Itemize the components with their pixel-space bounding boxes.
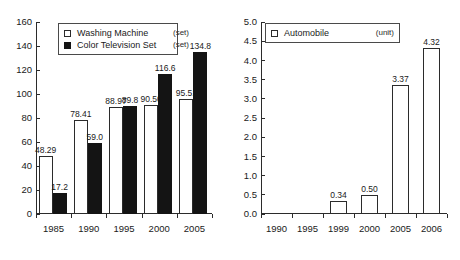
- bar: [123, 106, 137, 214]
- x-tick-mark: [385, 214, 386, 218]
- legend-swatch-icon-color-television-set: [64, 42, 71, 49]
- bar: [158, 74, 172, 214]
- bar: [53, 193, 67, 214]
- bar: [193, 52, 207, 214]
- bar: [109, 107, 123, 214]
- bar: [88, 143, 102, 214]
- x-tick-mark: [36, 214, 37, 218]
- legend-item-washing-machine: Washing Machine (set): [64, 27, 172, 39]
- x-tick-mark: [447, 214, 448, 218]
- legend-unit-color-television-set: (set): [163, 40, 189, 50]
- legend-swatch-icon-automobile: [271, 30, 278, 37]
- legend-item-color-television-set: Color Television Set (set): [64, 39, 172, 51]
- bar-value-label: 0.34: [325, 191, 353, 200]
- x-tick-mark: [212, 214, 213, 218]
- x-tick-mark: [106, 214, 107, 218]
- bar: [423, 48, 440, 214]
- bar: [361, 195, 378, 214]
- legend-right: Automobile (unit): [265, 23, 400, 43]
- plot-area-right: 0.00.51.01.52.02.53.03.54.04.55.0 0.340.…: [261, 22, 447, 214]
- chart-panel-appliances: 020406080100120140160 48.2917.278.4159.0…: [0, 0, 225, 260]
- x-tick-label: 1990: [71, 224, 107, 234]
- x-tick-mark: [177, 214, 178, 218]
- x-tick-label: 2005: [176, 224, 212, 234]
- two-panel-bar-chart-figure: 020406080100120140160 48.2917.278.4159.0…: [0, 0, 460, 260]
- x-tick-mark: [354, 214, 355, 218]
- bar: [330, 201, 347, 214]
- legend-left: Washing Machine (set) Color Television S…: [58, 23, 178, 55]
- bar-value-label: 3.37: [387, 75, 415, 84]
- bar: [392, 85, 409, 214]
- legend-unit-washing-machine: (set): [163, 28, 189, 38]
- bar-value-label: 48.29: [32, 146, 60, 155]
- legend-label-color-television-set: Color Television Set: [77, 40, 163, 50]
- bar-value-label: 17.2: [46, 183, 74, 192]
- legend-item-automobile: Automobile (unit): [271, 27, 394, 39]
- x-tick-mark: [71, 214, 72, 218]
- x-tick-label: 1995: [106, 224, 142, 234]
- x-tick-label: 1985: [36, 224, 72, 234]
- bar-value-label: 0.50: [356, 185, 384, 194]
- bar: [179, 99, 193, 214]
- x-tick-mark: [142, 214, 143, 218]
- x-tick-mark: [292, 214, 293, 218]
- legend-unit-automobile: (unit): [366, 28, 394, 38]
- bar-value-label: 59.0: [81, 133, 109, 142]
- legend-label-washing-machine: Washing Machine: [77, 28, 163, 38]
- x-tick-mark: [323, 214, 324, 218]
- bar-value-label: 78.41: [67, 110, 95, 119]
- legend-label-automobile: Automobile: [284, 28, 329, 38]
- x-tick-label: 2000: [141, 224, 177, 234]
- bar-value-label: 4.32: [418, 38, 446, 47]
- legend-swatch-icon-washing-machine: [64, 30, 71, 37]
- bar-value-label: 116.6: [151, 64, 179, 73]
- x-tick-mark: [416, 214, 417, 218]
- bar-value-label: 134.8: [186, 42, 214, 51]
- x-tick-label: 2006: [414, 224, 450, 234]
- x-tick-mark: [261, 214, 262, 218]
- bar: [144, 105, 158, 214]
- chart-panel-automobile: 0.00.51.01.52.02.53.03.54.04.55.0 0.340.…: [225, 0, 460, 260]
